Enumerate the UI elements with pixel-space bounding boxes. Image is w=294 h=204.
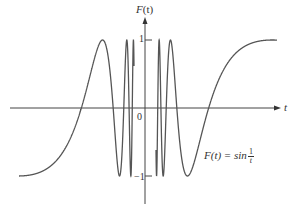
axes — [10, 17, 281, 204]
y-axis-label-main: F — [136, 3, 143, 15]
x-axis-label: t — [284, 102, 287, 113]
formula-fraction: 1t — [248, 148, 254, 165]
tick-label-pos-1: 1 — [139, 34, 144, 44]
origin-label: 0 — [137, 112, 142, 122]
y-axis-label-arg: (t) — [143, 3, 153, 15]
x-axis-arrow-icon — [274, 106, 281, 111]
y-axis-label: F(t) — [136, 4, 153, 15]
formula-denominator: t — [250, 157, 252, 165]
y-axis-arrow-icon — [143, 17, 148, 24]
tick-label-neg-1: −1 — [134, 172, 145, 182]
formula-annotation: F(t) = sin1t — [204, 148, 254, 165]
plot-area — [0, 0, 294, 204]
formula-lhs: F(t) = sin — [204, 149, 247, 161]
